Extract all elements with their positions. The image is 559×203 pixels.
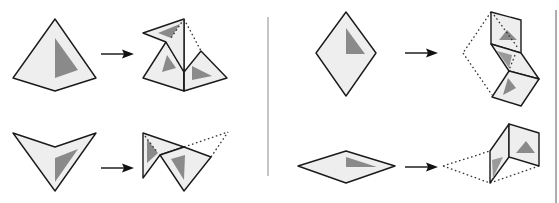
arrow-4 xyxy=(405,163,438,172)
tall-rhombus-folded-shape xyxy=(463,12,539,106)
arrow-3 xyxy=(405,49,438,58)
pyramid-source-shape xyxy=(13,19,96,91)
tall-rhombus-source-shape xyxy=(316,12,376,96)
arrow-1 xyxy=(101,50,134,59)
arrow-2 xyxy=(101,164,134,173)
arrowhead-unfolded-shape xyxy=(143,132,228,191)
arrowhead-source-shape xyxy=(13,133,96,191)
flat-rhombus-source-shape xyxy=(298,151,395,183)
fold-diagram xyxy=(0,0,559,203)
flat-rhombus-folded-shape xyxy=(443,124,539,183)
pyramid-unfolded-shape xyxy=(143,19,227,91)
